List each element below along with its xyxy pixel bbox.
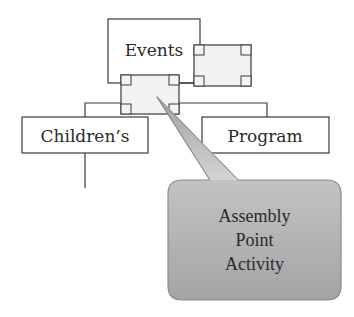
node-side-selected[interactable]	[194, 45, 251, 86]
resize-handle-icon[interactable]	[121, 75, 131, 85]
node-center-selected[interactable]	[121, 75, 179, 114]
callout-text: Assembly Point Activity	[168, 180, 341, 300]
resize-handle-icon[interactable]	[241, 45, 251, 55]
resize-handle-icon[interactable]	[241, 76, 251, 86]
callout-line-3: Activity	[225, 252, 284, 276]
node-childrens[interactable]: Children’s	[22, 117, 148, 153]
resize-handle-icon[interactable]	[169, 75, 179, 85]
resize-handle-icon[interactable]	[194, 76, 204, 86]
resize-handle-icon[interactable]	[121, 104, 131, 114]
node-program[interactable]: Program	[202, 117, 329, 153]
resize-handle-icon[interactable]	[194, 45, 204, 55]
callout-line-2: Point	[235, 228, 273, 252]
node-program-label: Program	[227, 126, 302, 146]
node-childrens-label: Children’s	[41, 126, 130, 146]
callout-line-1: Assembly	[219, 204, 291, 228]
node-events-label: Events	[125, 40, 184, 60]
node-events[interactable]: Events	[108, 19, 200, 83]
